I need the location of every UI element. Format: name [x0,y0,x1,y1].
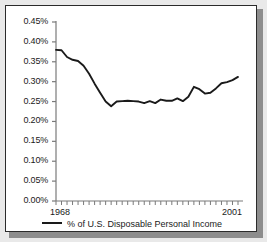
chart-panel: 0.45%0.40%0.35%0.30%0.25%0.20%0.15%0.10%… [5,5,257,232]
y-tick-label: 0.20% [23,115,48,125]
y-tick-label: 0.40% [23,36,48,46]
legend-line-swatch [42,222,62,224]
y-tick-label: 0.45% [23,16,48,26]
legend-entry: % of U.S. Disposable Personal Income [42,214,222,232]
y-tick-label: 0.00% [23,195,48,205]
y-tick-label: 0.05% [23,175,48,185]
y-tick-label: 0.15% [23,135,48,145]
y-tick-label: 0.35% [23,56,48,66]
data-series-line [56,50,238,106]
chart-figure: 0.45%0.40%0.35%0.30%0.25%0.20%0.15%0.10%… [0,0,267,242]
chart-legend: % of U.S. Disposable Personal Income [6,214,258,232]
y-tick-label: 0.30% [23,76,48,86]
y-tick-label: 0.25% [23,96,48,106]
legend-label: % of U.S. Disposable Personal Income [67,219,222,229]
y-tick-label: 0.10% [23,155,48,165]
axes [52,21,243,205]
